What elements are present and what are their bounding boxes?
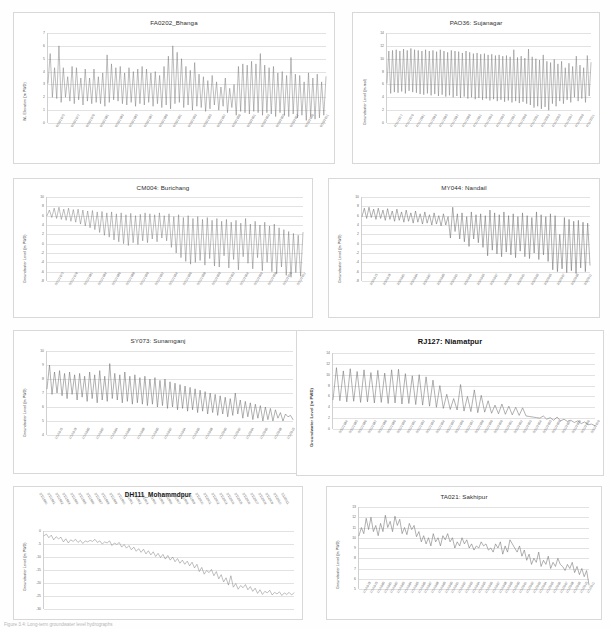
page-caption: Figure 3.4: Long-term groundwater level … (4, 622, 113, 629)
chart-panel-my044-nandail: MY044: Nandail Groundwater Level (m PWD)… (328, 178, 600, 318)
chart-panel-ta021-sakhipur: TA021: Sakhipur Groundwater Level (m PWD… (326, 486, 602, 620)
chart-panel-sy073-sunamganj: SY073: Sunamganj Groundwater Level (m PW… (13, 330, 303, 474)
series-line (387, 48, 591, 110)
chart-panel-fa0202-bhanga: FA0202_Bhanga WL Elevation (m PWD) 01234… (13, 12, 335, 164)
series-plot (353, 13, 600, 164)
series-line (47, 364, 293, 421)
series-line (359, 515, 589, 585)
series-plot (14, 331, 303, 474)
chart-panel-dh111-mohammdpur: DH111_Mohammdpur Groundwater Level (m PW… (13, 486, 303, 620)
series-line (48, 46, 326, 121)
series-line (362, 207, 590, 273)
chart-panel-rj127-niamatpur: RJ127: Niamatpur Groundwater Level (m PW… (296, 330, 604, 476)
series-plot (14, 487, 303, 620)
series-plot (14, 13, 335, 164)
series-plot (14, 179, 313, 318)
figure-page: FA0202_Bhanga WL Elevation (m PWD) 01234… (0, 0, 610, 629)
series-line (333, 368, 595, 426)
series-line (44, 534, 294, 595)
chart-panel-cm004-burichang: CM004: Burichang Groundwater Level (m PW… (13, 178, 313, 318)
series-plot (297, 331, 604, 476)
series-plot (329, 179, 600, 318)
series-line (47, 207, 303, 277)
series-plot (327, 487, 602, 620)
chart-panel-pao36-sujanagar: PAO36: Sujanagar Groundwater Level (m-ms… (352, 12, 600, 164)
